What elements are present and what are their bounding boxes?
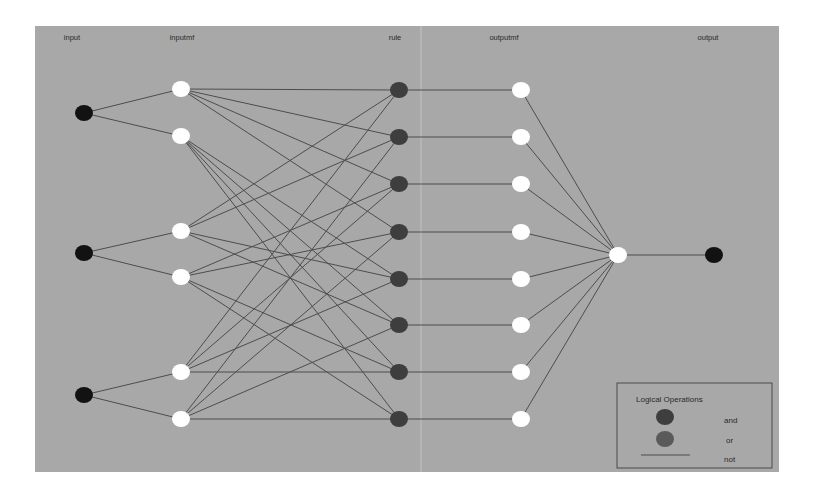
rule-node-rule2[interactable] xyxy=(390,129,408,145)
rule-node-rule6[interactable] xyxy=(390,317,408,333)
rule-node-rule4[interactable] xyxy=(390,224,408,240)
legend-label-not: not xyxy=(724,455,736,464)
rule-node-rule7[interactable] xyxy=(390,364,408,380)
outputmf-node-outmf4[interactable] xyxy=(512,224,530,240)
outputmf-node-outmf5[interactable] xyxy=(512,271,530,287)
rule-node-rule1[interactable] xyxy=(390,82,408,98)
layer-label-input: input xyxy=(64,33,81,42)
inputmf-node-in1mf2[interactable] xyxy=(172,128,190,144)
legend-title: Logical Operations xyxy=(636,395,703,404)
outputmf-node-outmf2[interactable] xyxy=(512,129,530,145)
outputmf-node-outmf7[interactable] xyxy=(512,364,530,380)
input-node-in3[interactable] xyxy=(75,387,93,403)
inputmf-node-in3mf1[interactable] xyxy=(172,364,190,380)
diagram-canvas: inputinputmfruleoutputmfoutput Logical O… xyxy=(0,0,813,496)
inputmf-node-in3mf2[interactable] xyxy=(172,411,190,427)
outputmf-node-outmf3[interactable] xyxy=(512,176,530,192)
rule-node-rule8[interactable] xyxy=(390,411,408,427)
input-node-in2[interactable] xyxy=(75,245,93,261)
input-node-in1[interactable] xyxy=(75,105,93,121)
rule-node-rule3[interactable] xyxy=(390,176,408,192)
legend-and-swatch-icon xyxy=(656,409,674,425)
output-node[interactable] xyxy=(705,247,723,263)
legend-label-and: and xyxy=(724,416,737,425)
layer-label-inputmf: inputmf xyxy=(170,33,196,42)
legend-or-swatch-icon xyxy=(656,431,674,447)
inputmf-node-in1mf1[interactable] xyxy=(172,81,190,97)
rule-node-rule5[interactable] xyxy=(390,271,408,287)
outputmf-node-outmf8[interactable] xyxy=(512,411,530,427)
layer-label-rule: rule xyxy=(389,33,402,42)
legend-label-or: or xyxy=(726,436,733,445)
outputmf-node-outmf6[interactable] xyxy=(512,317,530,333)
anfis-structure-diagram: inputinputmfruleoutputmfoutput Logical O… xyxy=(0,0,813,496)
sum-node[interactable] xyxy=(609,247,627,263)
outputmf-node-outmf1[interactable] xyxy=(512,82,530,98)
inputmf-node-in2mf1[interactable] xyxy=(172,223,190,239)
layer-label-outputmf: outputmf xyxy=(489,33,519,42)
inputmf-node-in2mf2[interactable] xyxy=(172,269,190,285)
layer-label-output: output xyxy=(698,33,720,42)
